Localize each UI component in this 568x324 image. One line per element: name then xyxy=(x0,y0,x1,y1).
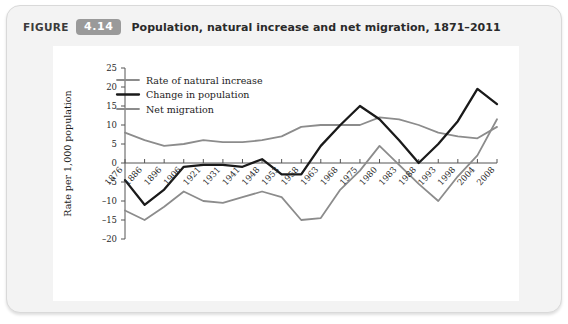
legend-label: Net migration xyxy=(146,104,214,115)
y-axis-title: Rate per 1,000 population xyxy=(62,90,73,216)
x-tick-label: 1958 xyxy=(279,165,301,188)
x-tick-label: 1906 xyxy=(161,165,183,188)
legend-label: Rate of natural increase xyxy=(146,75,263,86)
x-tick-label: 2004 xyxy=(455,165,477,188)
x-tick-label: 1988 xyxy=(396,165,418,188)
x-tick-label: 1998 xyxy=(435,165,457,188)
chart-plot-panel: Rate of natural increaseChange in popula… xyxy=(53,46,519,301)
y-tick-label: 25 xyxy=(106,63,117,73)
figure-number-badge: 4.14 xyxy=(76,19,122,35)
y-tick-label: 5 xyxy=(112,139,117,149)
chart-axis-labels: 2520151050–5–10–15–201876188618961906192… xyxy=(62,63,496,244)
legend-label: Change in population xyxy=(146,89,249,100)
x-tick-label: 1953 xyxy=(259,165,281,188)
x-tick-label: 1948 xyxy=(240,165,262,188)
x-tick-label: 1931 xyxy=(200,165,222,188)
y-tick-label: 10 xyxy=(106,120,117,130)
x-tick-label: 1963 xyxy=(298,165,320,188)
x-tick-label: 1983 xyxy=(377,165,399,188)
figure-title: Population, natural increase and net mig… xyxy=(131,21,500,34)
line-chart: Rate of natural increaseChange in popula… xyxy=(53,46,519,301)
figure-header: FIGURE 4.14 Population, natural increase… xyxy=(7,6,561,48)
chart-legend: Rate of natural increaseChange in popula… xyxy=(117,75,263,115)
y-tick-label: 20 xyxy=(106,82,117,92)
x-tick-label: 1980 xyxy=(357,165,379,188)
x-tick-label: 1968 xyxy=(318,165,340,188)
y-tick-label: –20 xyxy=(102,234,117,244)
x-tick-label: 2008 xyxy=(475,165,497,188)
x-tick-label: 1941 xyxy=(220,165,242,188)
figure-card: FIGURE 4.14 Population, natural increase… xyxy=(6,5,562,313)
x-tick-label: 1975 xyxy=(338,165,360,188)
figure-label: FIGURE xyxy=(23,21,69,33)
x-tick-label: 1921 xyxy=(181,165,203,188)
y-tick-label: –10 xyxy=(102,196,117,206)
y-tick-label: –15 xyxy=(102,215,117,225)
x-tick-label: 1993 xyxy=(416,165,438,188)
y-tick-label: 15 xyxy=(106,101,117,111)
x-tick-label: 1896 xyxy=(142,165,164,188)
